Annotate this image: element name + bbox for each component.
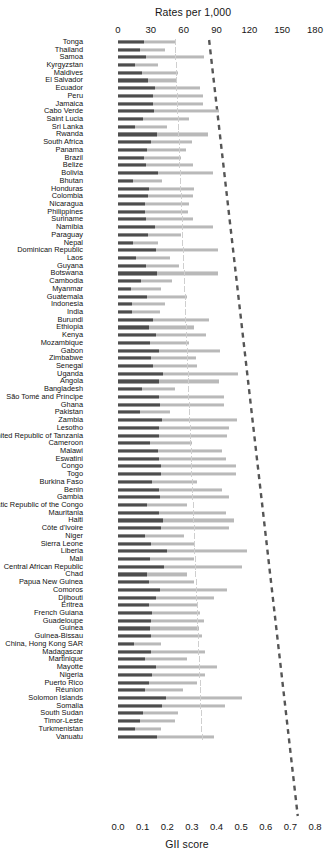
chart-row: Benin xyxy=(0,486,330,494)
row-reference-tick xyxy=(185,294,186,300)
chart-row: Pakistan xyxy=(0,409,330,417)
bottom-axis-ticks: 0.00.10.20.30.40.50.60.70.8 xyxy=(0,821,330,833)
row-reference-tick xyxy=(185,317,186,323)
bar-gii-score xyxy=(118,658,145,661)
chart-row: Cameroon xyxy=(0,439,330,447)
bar-gii-score xyxy=(118,125,135,128)
bar-gii-score xyxy=(118,264,146,267)
top-axis-ticks: 0306090120150180 xyxy=(0,24,330,36)
bottom-tick-0.6: 0.6 xyxy=(259,821,272,832)
chart-row: Dominican Republic xyxy=(0,246,330,254)
chart-row: Puerto Rico xyxy=(0,679,330,687)
top-axis-title: Rates per 1,000 xyxy=(0,6,330,18)
bar-gii-score xyxy=(118,318,153,321)
bar-gii-score xyxy=(118,465,161,468)
bar-gii-score xyxy=(118,164,146,167)
row-reference-tick xyxy=(177,93,178,99)
row-reference-tick xyxy=(199,656,200,662)
row-reference-tick xyxy=(194,548,195,554)
row-reference-tick xyxy=(181,209,182,215)
row-reference-tick xyxy=(194,533,195,539)
bar-gii-score xyxy=(118,557,150,560)
row-reference-tick xyxy=(197,610,198,616)
bar-gii-score xyxy=(118,449,158,452)
row-reference-tick xyxy=(182,240,183,246)
chart-rows: TongaThailandSamoaKyrgyzstanMaldivesEl S… xyxy=(0,38,330,740)
top-tick-120: 120 xyxy=(241,24,257,35)
row-reference-tick xyxy=(181,201,182,207)
bar-gii-score xyxy=(118,256,136,259)
chart-row: Senegal xyxy=(0,362,330,370)
bar-gii-score xyxy=(118,48,140,51)
chart-row: Malawi xyxy=(0,447,330,455)
chart-row: Honduras xyxy=(0,185,330,193)
bar-gii-score xyxy=(118,619,151,622)
chart-row: Martinique xyxy=(0,656,330,664)
chart-row: São Tomé and Príncipe xyxy=(0,393,330,401)
row-reference-tick xyxy=(183,263,184,269)
row-reference-tick xyxy=(191,448,192,454)
bar-gii-score xyxy=(118,334,156,337)
bottom-tick-0.5: 0.5 xyxy=(235,821,248,832)
row-reference-tick xyxy=(201,726,202,732)
bar-gii-score xyxy=(118,179,133,182)
chart-row: El Salvador xyxy=(0,77,330,85)
chart-row: Guyana xyxy=(0,262,330,270)
bar-gii-score xyxy=(118,426,159,429)
chart-row: Liberia xyxy=(0,547,330,555)
bar-gii-score xyxy=(118,642,134,645)
top-tick-150: 150 xyxy=(274,24,290,35)
bar-gii-score xyxy=(118,365,153,368)
row-reference-tick xyxy=(175,39,176,45)
bar-gii-score xyxy=(118,218,146,221)
row-reference-tick xyxy=(191,471,192,477)
chart-row: Vanuatu xyxy=(0,733,330,741)
bar-gii-score xyxy=(118,133,157,136)
row-label: Vanuatu xyxy=(56,733,83,740)
bar-gii-score xyxy=(118,280,141,283)
row-reference-tick xyxy=(184,270,185,276)
row-reference-tick xyxy=(185,309,186,315)
chart-row: Tonga xyxy=(0,38,330,46)
row-reference-tick xyxy=(187,348,188,354)
row-reference-tick xyxy=(194,525,195,531)
row-reference-tick xyxy=(180,178,181,184)
bar-gii-score xyxy=(118,118,143,121)
top-tick-180: 180 xyxy=(307,24,323,35)
bar-gii-score xyxy=(118,341,150,344)
bar-gii-score xyxy=(118,395,159,398)
row-reference-tick xyxy=(192,487,193,493)
row-reference-tick xyxy=(188,378,189,384)
row-reference-tick xyxy=(196,595,197,601)
bar-gii-score xyxy=(118,148,147,151)
row-reference-tick xyxy=(198,633,199,639)
row-reference-tick xyxy=(197,625,198,631)
row-reference-tick xyxy=(190,433,191,439)
row-reference-tick xyxy=(189,402,190,408)
row-reference-tick xyxy=(176,85,177,91)
bar-gii-score xyxy=(118,226,155,229)
row-reference-tick xyxy=(188,386,189,392)
row-reference-tick xyxy=(201,718,202,724)
row-reference-tick xyxy=(190,425,191,431)
chart-row: Central African Republic xyxy=(0,563,330,571)
row-reference-tick xyxy=(183,255,184,261)
row-reference-tick xyxy=(178,124,179,130)
bar-gii-score xyxy=(118,511,159,514)
row-reference-tick xyxy=(197,618,198,624)
bar-gii-score xyxy=(118,604,149,607)
row-reference-tick xyxy=(182,216,183,222)
row-reference-tick xyxy=(194,541,195,547)
bar-gii-score xyxy=(118,689,145,692)
top-tick-60: 60 xyxy=(178,24,189,35)
row-reference-tick xyxy=(189,409,190,415)
row-reference-tick xyxy=(178,131,179,137)
row-reference-tick xyxy=(177,108,178,114)
row-reference-tick xyxy=(183,247,184,253)
bar-gii-score xyxy=(118,241,133,244)
bar-gii-score xyxy=(118,372,163,375)
bar-gii-score xyxy=(118,627,150,630)
chart-row: Eswatini xyxy=(0,455,330,463)
chart-row: Burundi xyxy=(0,316,330,324)
bar-gii-score xyxy=(118,210,145,213)
